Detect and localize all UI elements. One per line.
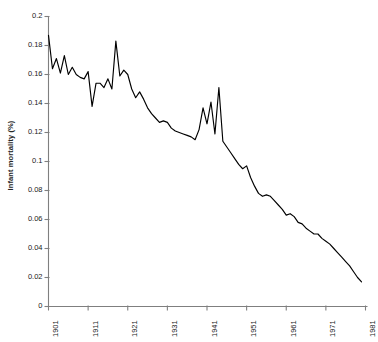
y-tick-label-10: 0.2 xyxy=(32,12,42,20)
y-tick-label-1: 0.02 xyxy=(28,273,43,281)
y-tick-label-3: 0.06 xyxy=(28,215,43,223)
axis-group xyxy=(45,17,368,311)
y-tick-label-2: 0.04 xyxy=(28,244,43,252)
y-tick-label-0: 0 xyxy=(38,302,42,310)
x-tick-label-8: 1981 xyxy=(369,320,377,337)
y-tick-label-6: 0.12 xyxy=(28,128,43,136)
data-line-0 xyxy=(49,35,362,282)
x-tick-label-7: 1971 xyxy=(329,320,337,337)
x-tick-label-1: 1911 xyxy=(92,320,100,336)
x-tick-label-3: 1931 xyxy=(171,320,179,337)
y-tick-label-7: 0.14 xyxy=(28,99,43,107)
y-tick-label-8: 0.16 xyxy=(28,70,43,78)
chart-container: Infant mortality (%) 00.020.040.060.080.… xyxy=(0,0,378,342)
y-tick-label-9: 0.18 xyxy=(28,41,43,49)
line-chart-plot xyxy=(0,0,378,342)
y-tick-label-4: 0.08 xyxy=(28,186,43,194)
x-tick-label-5: 1951 xyxy=(250,320,258,337)
x-tick-label-4: 1941 xyxy=(211,320,219,337)
series-group xyxy=(49,35,362,282)
x-tick-label-0: 1901 xyxy=(52,320,60,337)
x-tick-label-2: 1921 xyxy=(131,320,139,337)
x-tick-label-6: 1961 xyxy=(290,320,298,337)
y-tick-label-5: 0.1 xyxy=(32,157,42,165)
